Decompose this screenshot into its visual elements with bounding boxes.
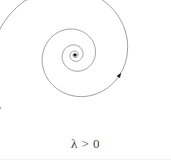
bottom-rule <box>0 159 171 160</box>
direction-arrowhead-icon <box>117 73 122 78</box>
spiral-curve-group <box>0 0 128 109</box>
lambda-condition-caption: λ > 0 <box>0 136 171 152</box>
arrowhead-group <box>117 73 122 78</box>
fixed-point-group <box>73 53 76 56</box>
spiral-trajectory-path <box>0 0 128 109</box>
spiral-figure: λ > 0 <box>0 0 171 163</box>
origin-fixed-point-icon <box>73 53 76 56</box>
